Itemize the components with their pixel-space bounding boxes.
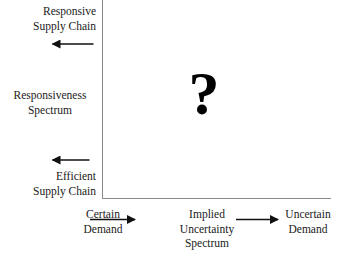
diagram-canvas: Responsive Supply Chain Responsiveness S… bbox=[0, 0, 340, 257]
label-uncertain-line2: Demand bbox=[279, 222, 337, 237]
label-efficient-line1: Efficient bbox=[33, 169, 96, 184]
label-responsive-line2: Supply Chain bbox=[33, 19, 96, 34]
label-efficient-supply-chain: Efficient Supply Chain bbox=[33, 169, 96, 198]
label-implied-uncertainty-spectrum: Implied Uncertainty Spectrum bbox=[176, 207, 238, 251]
label-implied-line3: Spectrum bbox=[176, 236, 238, 251]
label-implied-line2: Uncertainty bbox=[176, 222, 238, 237]
label-efficient-line2: Supply Chain bbox=[33, 184, 96, 199]
label-certain-line1: Certain bbox=[78, 207, 128, 222]
label-certain-line2: Demand bbox=[78, 222, 128, 237]
vertical-axis-line bbox=[102, 0, 103, 199]
label-uncertain-line1: Uncertain bbox=[279, 207, 337, 222]
label-responsiveness-spectrum: Responsiveness Spectrum bbox=[0, 88, 100, 117]
question-mark-marker: ? bbox=[178, 62, 230, 124]
label-responsive-supply-chain: Responsive Supply Chain bbox=[33, 4, 96, 33]
label-responsive-line1: Responsive bbox=[33, 4, 96, 19]
horizontal-axis-line bbox=[102, 198, 331, 199]
label-responsiveness-line2: Spectrum bbox=[0, 103, 100, 118]
label-uncertain-demand: Uncertain Demand bbox=[279, 207, 337, 236]
label-certain-demand: Certain Demand bbox=[78, 207, 128, 236]
label-responsiveness-line1: Responsiveness bbox=[0, 88, 100, 103]
label-implied-line1: Implied bbox=[176, 207, 238, 222]
